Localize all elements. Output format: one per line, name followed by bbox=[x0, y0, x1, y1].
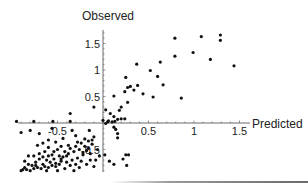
x-axis-label: Predicted bbox=[252, 117, 303, 131]
data-point bbox=[27, 154, 30, 157]
y-axis-label: Observed bbox=[82, 9, 134, 23]
data-point bbox=[112, 94, 115, 97]
data-point bbox=[58, 154, 61, 157]
data-point bbox=[91, 138, 94, 141]
data-point bbox=[121, 157, 124, 160]
data-point bbox=[127, 153, 130, 156]
data-point bbox=[50, 153, 53, 156]
data-point bbox=[92, 106, 95, 109]
data-point bbox=[41, 142, 44, 145]
data-point bbox=[78, 148, 81, 151]
data-point bbox=[23, 160, 26, 163]
window-bottom-edge bbox=[110, 181, 308, 183]
data-point bbox=[54, 165, 57, 168]
data-point bbox=[123, 117, 126, 120]
data-point bbox=[112, 163, 115, 166]
data-point bbox=[87, 139, 90, 142]
data-point bbox=[91, 143, 94, 146]
data-point bbox=[118, 109, 121, 112]
data-point bbox=[47, 146, 50, 149]
data-point bbox=[123, 90, 126, 93]
x-tick-label: 1 bbox=[191, 125, 197, 137]
data-point bbox=[219, 33, 222, 36]
data-point bbox=[112, 115, 115, 118]
data-point bbox=[156, 75, 159, 78]
x-tick-label: -0.5 bbox=[48, 125, 67, 137]
data-point bbox=[69, 112, 72, 115]
data-point bbox=[159, 61, 162, 64]
data-point bbox=[60, 157, 63, 160]
data-point bbox=[113, 120, 116, 123]
data-point bbox=[50, 164, 53, 167]
data-point bbox=[63, 167, 66, 170]
data-point bbox=[72, 150, 75, 153]
data-point bbox=[80, 142, 83, 145]
y-tick-label: 1.5 bbox=[85, 38, 100, 50]
data-point bbox=[29, 169, 32, 172]
data-point bbox=[38, 157, 41, 160]
data-point bbox=[132, 89, 135, 92]
data-point bbox=[50, 127, 53, 130]
data-point bbox=[27, 163, 30, 166]
data-point bbox=[43, 165, 46, 168]
data-point bbox=[47, 154, 50, 157]
data-point bbox=[209, 58, 212, 61]
data-point bbox=[43, 150, 46, 153]
data-point bbox=[125, 164, 128, 167]
data-point bbox=[87, 147, 90, 150]
data-point bbox=[126, 86, 129, 89]
data-point bbox=[85, 163, 88, 166]
data-point bbox=[135, 63, 138, 66]
data-point bbox=[116, 118, 119, 121]
data-point bbox=[76, 156, 79, 159]
data-points bbox=[15, 33, 236, 172]
data-point bbox=[180, 97, 183, 100]
data-point bbox=[96, 148, 99, 151]
data-point bbox=[71, 129, 74, 132]
data-point bbox=[54, 162, 57, 165]
data-point bbox=[173, 55, 176, 58]
data-point bbox=[47, 166, 50, 169]
data-point bbox=[80, 160, 83, 163]
data-point bbox=[126, 101, 129, 104]
x-tick-label: 0.5 bbox=[141, 125, 156, 137]
data-point bbox=[94, 159, 97, 162]
data-point bbox=[69, 164, 72, 167]
data-point bbox=[124, 76, 127, 79]
data-point bbox=[219, 39, 222, 42]
data-point bbox=[63, 150, 66, 153]
data-point bbox=[29, 129, 32, 132]
x-axis: -0.50.511.5 Predicted bbox=[18, 117, 303, 137]
data-point bbox=[116, 132, 119, 135]
data-point bbox=[88, 129, 91, 132]
data-point bbox=[20, 169, 23, 172]
data-point bbox=[200, 35, 203, 38]
data-point bbox=[89, 152, 92, 155]
data-point bbox=[192, 51, 195, 54]
data-point bbox=[56, 148, 59, 151]
data-point bbox=[141, 92, 144, 95]
scatter-plot: -0.50.511.5 Predicted -0.50.511.5 Observ… bbox=[0, 0, 308, 183]
data-point bbox=[32, 154, 35, 157]
data-point bbox=[32, 120, 35, 123]
data-point bbox=[49, 161, 52, 164]
data-point bbox=[103, 153, 106, 156]
data-point bbox=[109, 112, 112, 115]
data-point bbox=[30, 164, 33, 167]
data-point bbox=[32, 167, 35, 170]
data-point bbox=[98, 154, 101, 157]
data-point bbox=[15, 120, 18, 123]
data-point bbox=[69, 120, 72, 123]
y-tick-label: 0.5 bbox=[85, 91, 100, 103]
data-point bbox=[108, 160, 111, 163]
data-point bbox=[40, 167, 43, 170]
data-point bbox=[69, 147, 72, 150]
data-point bbox=[38, 152, 41, 155]
data-point bbox=[152, 95, 155, 98]
data-point bbox=[74, 163, 77, 166]
data-point bbox=[120, 106, 123, 109]
data-point bbox=[34, 164, 37, 167]
x-tick-label: 1.5 bbox=[232, 125, 247, 137]
data-point bbox=[41, 155, 44, 158]
data-point bbox=[71, 159, 74, 162]
